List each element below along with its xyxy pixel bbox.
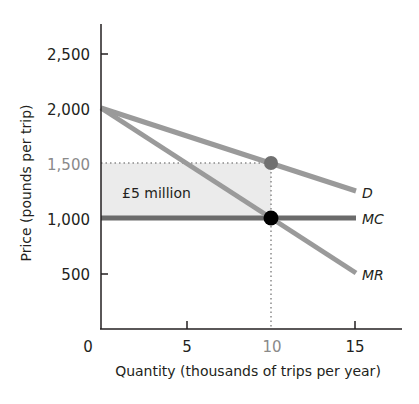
x-tick-label-10: 10 — [262, 338, 281, 356]
y-tick-label-2000: 2,000 — [47, 101, 90, 119]
x-tick-label-5: 5 — [182, 338, 192, 356]
demand-label: D — [362, 185, 373, 201]
economics-chart: 2,500 2,000 1,500 1,000 500 0 5 10 15 Qu… — [0, 0, 419, 404]
mc-label: MC — [362, 211, 384, 227]
y-tick-label-2500: 2,500 — [47, 46, 90, 64]
x-axis-title: Quantity (thousands of trips per year) — [115, 363, 381, 379]
profit-area-label: £5 million — [122, 185, 191, 201]
mr-equals-mc-point — [264, 211, 279, 226]
x-tick-label-15: 15 — [345, 338, 364, 356]
mr-label: MR — [362, 267, 384, 283]
y-tick-label-1500: 1,500 — [47, 156, 90, 174]
x-tick-label-0: 0 — [83, 338, 93, 356]
y-tick-label-1000: 1,000 — [47, 211, 90, 229]
y-axis-title: Price (pounds per trip) — [18, 104, 34, 261]
y-tick-label-500: 500 — [61, 266, 90, 284]
monopoly-price-point — [264, 156, 278, 170]
